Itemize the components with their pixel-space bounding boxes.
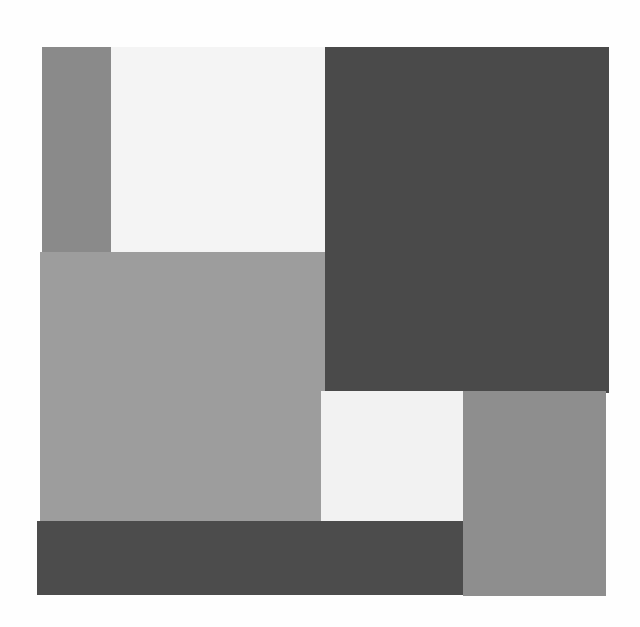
- bottom-right-gray-block: [463, 391, 606, 596]
- bottom-dark-strip: [37, 521, 463, 595]
- center-gray-block: [40, 252, 325, 522]
- left-gray-strip: [42, 47, 112, 253]
- top-right-dark-block: [325, 47, 609, 393]
- top-white-block: [111, 47, 325, 253]
- small-white-block: [321, 391, 463, 524]
